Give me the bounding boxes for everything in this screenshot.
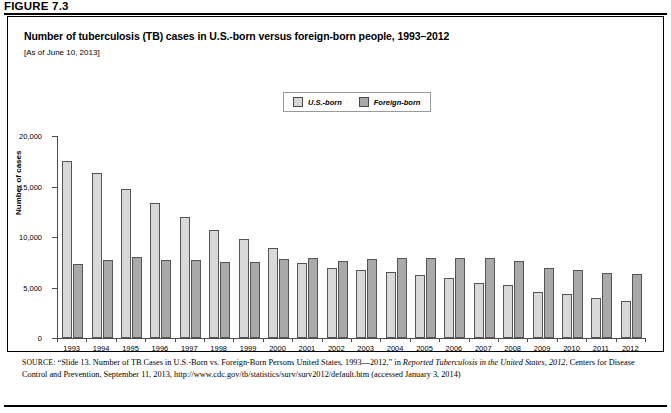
bar-foreign-born [308,258,318,338]
bar-us-born [444,278,454,338]
chart-title: Number of tuberculosis (TB) cases in U.S… [24,30,449,42]
bar-foreign-born [279,259,289,338]
bar-group [444,136,465,338]
plot-area: 05,00010,00015,00020,000 199319941995199… [57,136,645,338]
legend-item-foreign-born: Foreign-born [359,97,421,107]
bar-group [503,136,524,338]
x-tick [57,338,58,342]
bar-us-born [474,283,484,338]
x-tick [557,338,558,342]
x-tick [498,338,499,342]
bar-group [209,136,230,338]
x-tick [204,338,205,342]
bar-us-born [297,263,307,338]
legend-swatch-icon-foreign-born [359,97,369,107]
bar-group [591,136,612,338]
bar-us-born [268,248,278,338]
bar-us-born [356,270,366,338]
bar-foreign-born [573,270,583,338]
bar-us-born [503,285,513,338]
bar-group [386,136,407,338]
bar-group [621,136,642,338]
x-tick [116,338,117,342]
bar-foreign-born [514,261,524,338]
legend-label-foreign-born: Foreign-born [374,98,421,107]
bar-foreign-born [191,260,201,338]
figure-bottom-rule [4,405,667,407]
x-tick [410,338,411,342]
bar-us-born [180,217,190,338]
bar-us-born [386,272,396,338]
bar-group [180,136,201,338]
bar-us-born [533,292,543,338]
bar-us-born [239,239,249,338]
bar-foreign-born [367,259,377,338]
source-part-1: “Slide 13. Number of TB Cases in U.S.-Bo… [55,358,402,367]
bar-group [297,136,318,338]
x-tick [469,338,470,342]
x-tick [586,338,587,342]
bar-group [239,136,260,338]
bar-group [533,136,554,338]
bar-foreign-born [485,258,495,338]
bar-foreign-born [103,260,113,338]
figure-page: FIGURE 7.3 Number of tuberculosis (TB) c… [0,0,671,413]
y-tick-label: 15,000 [0,183,42,192]
bar-us-born [62,161,72,338]
bar-series-container [57,136,645,338]
bar-foreign-born [250,262,260,338]
bar-foreign-born [161,260,171,338]
figure-label: FIGURE 7.3 [4,0,69,12]
x-tick [645,338,646,342]
bar-foreign-born [397,258,407,338]
x-tick [439,338,440,342]
bar-foreign-born [632,274,642,338]
x-tick [351,338,352,342]
bar-group [121,136,142,338]
bar-group [92,136,113,338]
bar-foreign-born [544,268,554,338]
bar-group [415,136,436,338]
bar-group [562,136,583,338]
chart-subtitle: [As of June 10, 2013] [24,48,100,57]
bar-us-born [621,301,631,338]
bar-us-born [121,189,131,338]
x-tick [233,338,234,342]
source-prefix: SOURCE: [22,358,55,367]
x-tick [145,338,146,342]
bar-us-born [327,268,337,338]
bar-group [268,136,289,338]
chart-legend: U.S.-born Foreign-born [283,92,431,112]
y-tick-label: 5,000 [0,284,42,293]
source-italic-title: Reported Tuberculosis in the United Stat… [403,358,566,367]
x-tick [86,338,87,342]
bar-foreign-born [455,258,465,338]
bar-us-born [209,230,219,338]
bar-us-born [591,298,601,338]
bar-us-born [562,294,572,338]
bar-group [150,136,171,338]
x-tick [527,338,528,342]
bar-foreign-born [220,262,230,338]
x-tick [322,338,323,342]
legend-swatch-icon-us-born [293,97,303,107]
bar-group [356,136,377,338]
bar-us-born [415,275,425,338]
y-tick-label: 10,000 [0,233,42,242]
x-tick [380,338,381,342]
bar-group [474,136,495,338]
bar-foreign-born [73,264,83,338]
bar-foreign-born [338,261,348,338]
y-tick-label: 0 [0,334,42,343]
bar-foreign-born [132,257,142,338]
bar-group [327,136,348,338]
source-note: SOURCE: “Slide 13. Number of TB Cases in… [22,357,658,380]
legend-item-us-born: U.S.-born [293,97,342,107]
bar-group [62,136,83,338]
x-tick [292,338,293,342]
bar-us-born [150,203,160,338]
x-tick [175,338,176,342]
bar-foreign-born [602,273,612,338]
x-tick [263,338,264,342]
legend-label-us-born: U.S.-born [308,98,342,107]
